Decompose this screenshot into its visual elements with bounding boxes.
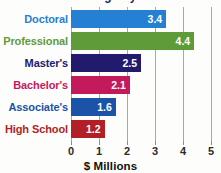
x-tick-label: 0 [61,145,81,157]
bar-row: Associate's1.6 [0,98,221,116]
bar: 3.4 [71,10,166,28]
category-label: Bachelor's [0,76,68,94]
x-axis-title: $ Millions [0,160,221,172]
chart-title: Lifetime earnings by education level [16,0,221,3]
bar: 1.2 [71,120,105,138]
x-axis: $ Millions 012345 [0,141,221,173]
bar-chart: Lifetime earnings by education level Doc… [0,0,221,173]
bar-row: High School1.2 [0,120,221,138]
bar-value-label: 2.1 [111,76,126,94]
x-tick-label: 3 [145,145,165,157]
category-label: Master's [0,54,68,72]
bar: 2.5 [71,54,141,72]
bar-row: Bachelor's2.1 [0,76,221,94]
bar-value-label: 4.4 [176,32,191,50]
bar-row: Doctoral3.4 [0,10,221,28]
bar: 2.1 [71,76,130,94]
x-tick-label: 1 [89,145,109,157]
x-tick-label: 2 [117,145,137,157]
bar-value-label: 1.6 [97,98,112,116]
bar: 4.4 [71,32,194,50]
bar-value-label: 2.5 [122,54,137,72]
category-label: High School [0,120,68,138]
category-label: Professional [0,32,68,50]
bar-row: Professional4.4 [0,32,221,50]
category-label: Doctoral [0,10,68,28]
bar: 1.6 [71,98,116,116]
plot-area: Doctoral3.4Professional4.4Master's2.5Bac… [0,7,221,141]
bar-value-label: 3.4 [148,10,163,28]
category-label: Associate's [0,98,68,116]
x-tick-label: 4 [173,145,193,157]
chart-title-clipped: Lifetime earnings by education level [0,0,221,7]
x-tick-label: 5 [201,145,221,157]
bar-row: Master's2.5 [0,54,221,72]
bar-value-label: 1.2 [86,120,101,138]
